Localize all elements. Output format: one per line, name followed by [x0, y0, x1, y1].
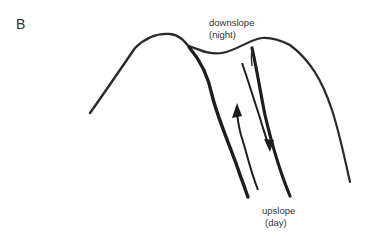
valley-diagram [0, 0, 378, 236]
right-valley-wall [252, 48, 290, 196]
upslope-arrow [232, 103, 258, 190]
valley-head-line [251, 48, 252, 66]
right-slope [290, 45, 350, 182]
downslope-label: downslope (night) [209, 17, 254, 41]
left-ridge [90, 34, 190, 113]
upslope-label: upslope (day) [262, 205, 295, 229]
